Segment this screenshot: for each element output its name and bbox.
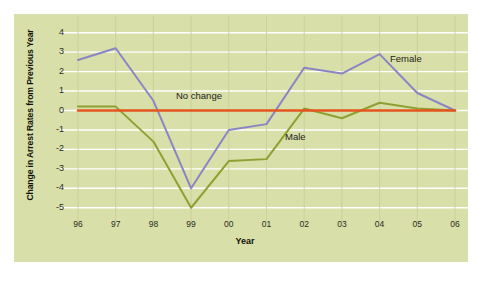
x-tick-label: 96 (67, 219, 89, 229)
x-tick-label: 06 (444, 219, 466, 229)
x-tick-label: 00 (218, 219, 240, 229)
annotation-no-change: No change (176, 90, 222, 101)
y-tick-label: 0 (46, 105, 64, 115)
x-tick-label: 97 (105, 219, 127, 229)
chart-page: Change in Arrest Rates from Previous Yea… (0, 0, 484, 282)
y-tick-label: -5 (46, 202, 64, 212)
x-tick-label: 98 (142, 219, 164, 229)
x-tick-label: 99 (180, 219, 202, 229)
y-tick-label: -4 (46, 182, 64, 192)
x-tick-label: 02 (293, 219, 315, 229)
annotation-female: Female (390, 53, 422, 64)
y-tick-label: -2 (46, 143, 64, 153)
annotation-male: Male (285, 131, 306, 142)
x-tick-label: 05 (406, 219, 428, 229)
y-tick-label: -3 (46, 163, 64, 173)
x-gridlines-group (78, 16, 455, 222)
x-tick-label: 01 (256, 219, 278, 229)
y-tick-label: 2 (46, 66, 64, 76)
y-tick-label: 1 (46, 85, 64, 95)
y-axis-label: Change in Arrest Rates from Previous Yea… (25, 22, 35, 208)
x-tick-label: 04 (369, 219, 391, 229)
x-tick-label: 03 (331, 219, 353, 229)
y-tick-label: 4 (46, 27, 64, 37)
y-tick-label: 3 (46, 46, 64, 56)
x-axis-label: Year (215, 236, 275, 246)
y-tick-label: -1 (46, 124, 64, 134)
